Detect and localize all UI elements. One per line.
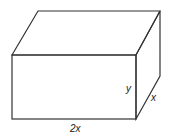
front-face: [12, 55, 136, 119]
top-face: [12, 11, 160, 55]
side-face: [136, 11, 160, 119]
depth-label: x: [150, 92, 157, 103]
length-label: 2x: [69, 123, 82, 134]
height-label: y: [125, 83, 132, 94]
box-diagram: 2x y x: [0, 0, 169, 139]
